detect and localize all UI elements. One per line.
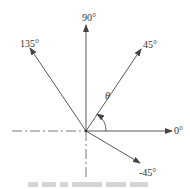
origin-point: [85, 130, 88, 133]
axis-135deg-arrow: [30, 48, 86, 131]
label-45deg: 45°: [143, 40, 157, 50]
label-theta: θ: [105, 91, 110, 101]
label-minus45deg: -45°: [139, 168, 156, 178]
diagram-canvas: [0, 0, 190, 189]
label-0deg: 0°: [174, 126, 183, 136]
label-135deg: 135°: [20, 39, 39, 49]
angle-direction-diagram: 90° 135° 45° 0° -45° θ: [0, 0, 190, 189]
theta-arc: [97, 114, 106, 131]
figure-caption-cutoff: [28, 182, 158, 188]
axis-45deg-arrow: [86, 49, 141, 131]
axis-minus45deg-arrow: [86, 131, 140, 163]
label-90deg: 90°: [82, 13, 96, 23]
